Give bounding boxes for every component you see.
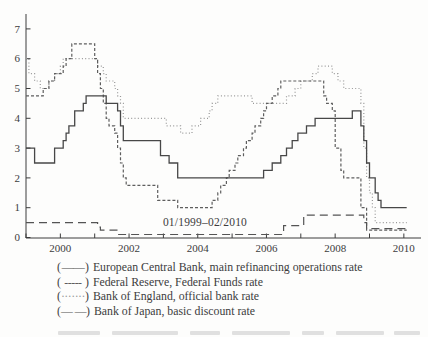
y-tick-label: 5 <box>15 82 21 94</box>
legend-label-boj: Bank of Japan, basic discount rate <box>94 304 255 318</box>
x-tick-label: 2006 <box>255 242 278 254</box>
x-tick-label: 2004 <box>187 242 210 254</box>
dashed-line-sample-icon: ----- <box>61 275 85 290</box>
x-tick-label: 2002 <box>118 242 140 254</box>
y-tick-label: 0 <box>15 231 21 243</box>
dotted-line-sample-icon: ······· <box>61 289 85 304</box>
y-tick-label: 7 <box>15 23 21 35</box>
x-tick-label: 2000 <box>49 242 72 254</box>
legend-item-fed: (-----)Federal Reserve, Federal Funds ra… <box>57 275 362 290</box>
legend-label-ecb: European Central Bank, main refinancing … <box>93 260 363 274</box>
y-tick-label: 6 <box>15 52 21 64</box>
paren-close: ) <box>85 260 89 274</box>
rate-comparison-figure: 01234567200020022004200620082010 01/1999… <box>0 0 428 337</box>
legend: (——)European Central Bank, main refinanc… <box>57 260 362 318</box>
legend-item-boj: (— —)Bank of Japan, basic discount rate <box>57 304 362 319</box>
paren-close: ) <box>85 289 89 303</box>
y-tick-label: 3 <box>15 142 21 154</box>
date-range-annotation: 01/1999–02/2010 <box>150 216 260 228</box>
y-tick-label: 4 <box>15 112 21 124</box>
y-tick-label: 2 <box>15 172 21 184</box>
legend-label-boe: Bank of England, official bank rate <box>93 289 259 303</box>
legend-item-ecb: (——)European Central Bank, main refinanc… <box>57 260 362 275</box>
y-tick-label: 1 <box>15 201 21 213</box>
x-tick-label: 2008 <box>324 242 347 254</box>
longdash-line-sample-icon: — — <box>61 304 86 319</box>
legend-item-boe: (·······)Bank of England, official bank … <box>57 289 362 304</box>
series-line-0 <box>26 96 407 208</box>
solid-line-sample-icon: —— <box>61 260 85 275</box>
paren-close: ) <box>86 304 90 318</box>
legend-label-fed: Federal Reserve, Federal Funds rate <box>93 275 263 289</box>
cropped-caption-line <box>0 328 428 337</box>
series-line-1 <box>26 44 407 230</box>
x-tick-label: 2010 <box>393 242 416 254</box>
paren-close: ) <box>85 275 89 289</box>
series-line-2 <box>26 59 407 223</box>
